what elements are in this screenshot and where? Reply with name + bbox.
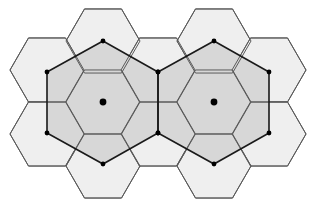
center-node	[211, 99, 218, 106]
vertex-node	[45, 70, 50, 75]
vertex-node	[45, 131, 50, 136]
vertex-node	[101, 39, 106, 44]
vertex-node	[212, 162, 217, 167]
vertex-node	[156, 70, 161, 75]
vertex-node	[212, 39, 217, 44]
vertex-node	[267, 70, 272, 75]
vertex-node	[156, 131, 161, 136]
vertex-node	[267, 131, 272, 136]
center-node	[100, 99, 107, 106]
hexagonal-cluster-diagram	[0, 0, 313, 199]
vertex-node	[101, 162, 106, 167]
